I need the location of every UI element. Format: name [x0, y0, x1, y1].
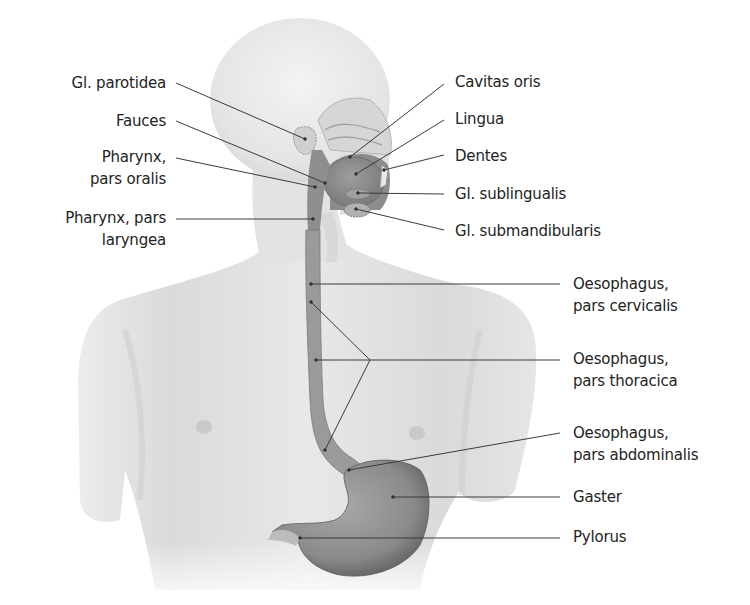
label-oesophagus-pars-cervicalis: Oesophagus, pars cervicalis: [573, 273, 678, 317]
label-pharynx-pars-laryngea: Pharynx, pars laryngea: [65, 207, 166, 251]
label-lingua: Lingua: [455, 108, 504, 130]
label-gl-submandibularis: Gl. submandibularis: [455, 220, 601, 242]
label-fauces: Fauces: [116, 110, 166, 132]
label-oesophagus-pars-abdominalis: Oesophagus, pars abdominalis: [573, 422, 698, 466]
leader-gl-submandibularis: [356, 209, 444, 230]
label-gl-parotidea: Gl. parotidea: [72, 72, 166, 94]
label-dentes: Dentes: [455, 145, 507, 167]
nipple-left: [196, 420, 212, 434]
nipple-right: [409, 426, 425, 440]
label-pharynx-pars-oralis: Pharynx, pars oralis: [90, 146, 166, 190]
label-gl-sublingualis: Gl. sublingualis: [455, 183, 566, 205]
label-oesophagus-pars-thoracica: Oesophagus, pars thoracica: [573, 348, 677, 392]
tongue: [324, 157, 384, 207]
leader-dentes: [384, 155, 444, 170]
label-cavitas-oris: Cavitas oris: [455, 71, 540, 93]
label-pylorus: Pylorus: [573, 526, 626, 548]
label-gaster: Gaster: [573, 486, 622, 508]
